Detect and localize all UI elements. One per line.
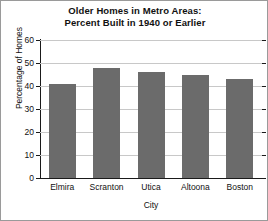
y-tick-mark-right: [262, 155, 266, 156]
y-tick-mark: [36, 40, 40, 41]
plot-area: 0102030405060 ElmiraScrantonUticaAltoona…: [40, 40, 262, 178]
y-tick-label: 50: [25, 58, 34, 68]
y-tick-mark: [36, 132, 40, 133]
y-tick-mark: [36, 63, 40, 64]
x-axis-title: City: [40, 200, 262, 210]
y-tick-mark: [36, 155, 40, 156]
y-tick-mark: [36, 86, 40, 87]
y-tick-mark-right: [262, 86, 266, 87]
x-tick-label: Utica: [141, 182, 160, 192]
y-tick-mark-right: [262, 178, 266, 179]
x-axis-line: [40, 178, 262, 179]
bar: [182, 75, 209, 179]
y-tick-mark-right: [262, 40, 266, 41]
y-tick-mark-right: [262, 109, 266, 110]
y-tick-mark: [36, 109, 40, 110]
chart-title: Older Homes in Metro Areas: Percent Buil…: [1, 5, 268, 29]
bar: [138, 72, 165, 178]
y-tick-label: 10: [25, 150, 34, 160]
x-tick-label: Altoona: [181, 182, 210, 192]
bar: [93, 68, 120, 178]
y-tick-label: 0: [29, 173, 34, 183]
y-tick-mark: [36, 178, 40, 179]
y-axis-title: Percentage of Homes: [14, 0, 24, 138]
y-tick-label: 40: [25, 81, 34, 91]
bar: [226, 79, 253, 178]
chart-title-line-1: Older Homes in Metro Areas:: [1, 5, 268, 17]
y-tick-label: 30: [25, 104, 34, 114]
x-tick-label: Boston: [227, 182, 253, 192]
y-tick-mark-right: [262, 132, 266, 133]
x-tick-label: Elmira: [50, 182, 74, 192]
chart-figure: Older Homes in Metro Areas: Percent Buil…: [0, 0, 268, 221]
gridline: [40, 40, 262, 41]
bar: [49, 84, 76, 178]
x-tick-label: Scranton: [90, 182, 124, 192]
chart-title-line-2: Percent Built in 1940 or Earlier: [1, 17, 268, 29]
gridline: [40, 63, 262, 64]
y-tick-mark-right: [262, 63, 266, 64]
y-tick-label: 20: [25, 127, 34, 137]
y-tick-label: 60: [25, 35, 34, 45]
